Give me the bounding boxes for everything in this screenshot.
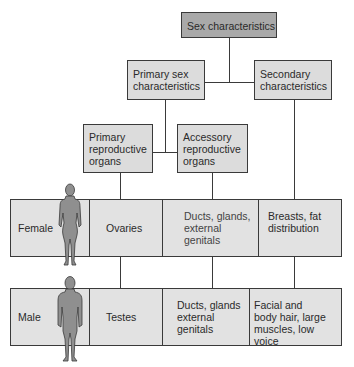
- male-secondary-label: Facial and body hair, large muscles, low…: [254, 299, 341, 347]
- primary-sex-characteristics-box: Primary sex characteristics: [127, 60, 205, 100]
- male-label: Male: [18, 311, 41, 323]
- female-figure-icon: [58, 183, 82, 270]
- male-figure-icon: [57, 275, 83, 365]
- male-accessory-label: Ducts, glands external genitals: [177, 299, 241, 335]
- secondary-characteristics-box: Secondary characteristics: [254, 60, 332, 100]
- male-secondary-cell: Facial and body hair, large muscles, low…: [249, 289, 341, 345]
- male-accessory-cell: Ducts, glands external genitals: [162, 289, 249, 345]
- female-accessory-label: Ducts, glands, external genitals: [184, 210, 251, 246]
- male-primary-label: Testes: [106, 311, 136, 323]
- accessory-reproductive-organs-label: Accessory reproductive organs: [183, 131, 241, 167]
- male-primary-cell: Testes: [89, 289, 162, 345]
- female-primary-label: Ovaries: [106, 222, 142, 234]
- secondary-characteristics-label: Secondary characteristics: [260, 68, 327, 92]
- accessory-reproductive-organs-box: Accessory reproductive organs: [177, 124, 248, 173]
- connector-level2-horizontal: [205, 82, 254, 83]
- connector-primary-sex-down: [165, 99, 166, 152]
- female-secondary-cell: Breasts, fat distribution: [258, 200, 341, 256]
- connector-level3-horizontal: [153, 152, 177, 153]
- primary-reproductive-organs-label: Primary reproductive organs: [89, 131, 147, 167]
- sex-characteristics-box: Sex characteristics: [181, 12, 277, 38]
- female-primary-cell: Ovaries: [89, 200, 162, 256]
- female-label: Female: [18, 222, 53, 234]
- connector-top-down: [229, 37, 230, 82]
- primary-reproductive-organs-box: Primary reproductive organs: [83, 124, 153, 173]
- primary-sex-characteristics-label: Primary sex characteristics: [133, 68, 200, 92]
- connector-secondary-down: [294, 99, 295, 288]
- sex-characteristics-label: Sex characteristics: [187, 20, 275, 32]
- female-accessory-cell: Ducts, glands, external genitals: [162, 200, 258, 256]
- female-secondary-label: Breasts, fat distribution: [268, 210, 321, 234]
